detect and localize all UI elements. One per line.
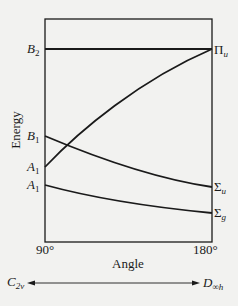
label-sigma-g: Σg <box>214 205 227 222</box>
label-a1-upper: A1 <box>26 159 39 176</box>
arrow-right-icon <box>192 281 200 286</box>
curve-a1-sigma-g <box>45 185 212 213</box>
label-c2v: C2v <box>7 274 24 291</box>
curve-a1-pi-u <box>45 49 212 167</box>
curve-b1-sigma-u <box>45 136 212 187</box>
label-d-inf-h: D∞h <box>202 275 224 292</box>
arrow-left-icon <box>27 281 35 286</box>
x-axis-label: Angle <box>112 256 144 271</box>
label-b1: B1 <box>27 128 39 145</box>
label-a1-lower: A1 <box>26 177 39 194</box>
x-tick-90: 90° <box>36 242 54 257</box>
plot-frame <box>45 19 212 242</box>
label-b2: B2 <box>27 41 39 58</box>
x-tick-180: 180° <box>193 242 218 257</box>
y-axis-label: Energy <box>8 111 23 149</box>
walsh-diagram: B2 B1 A1 A1 Πu Σu Σg Energy 90° 180° Ang… <box>0 0 238 306</box>
label-sigma-u: Σu <box>214 179 227 196</box>
label-pi-u: Πu <box>214 42 228 59</box>
